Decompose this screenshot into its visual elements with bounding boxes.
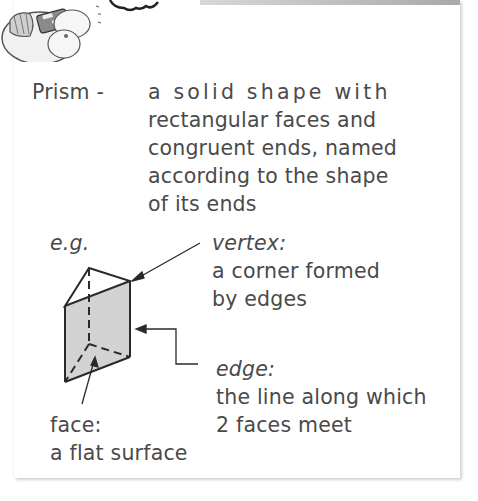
vertex-desc-line: a corner formed xyxy=(212,257,380,285)
vertex-title: vertex: xyxy=(212,229,380,257)
edge-desc-line: 2 faces meet xyxy=(216,411,427,439)
vertex-desc-line: by edges xyxy=(212,285,380,313)
edge-annotation: edge: the line along which 2 faces meet xyxy=(216,355,427,439)
face-desc-line: a flat surface xyxy=(50,439,188,467)
face-annotation: face: a flat surface xyxy=(50,411,188,467)
edge-desc-line: the line along which xyxy=(216,383,427,411)
edge-title: edge: xyxy=(216,355,427,383)
edge-arrow-icon xyxy=(136,325,198,364)
vertex-arrow-icon xyxy=(132,243,200,281)
face-title: face: xyxy=(50,411,188,439)
vertex-annotation: vertex: a corner formed by edges xyxy=(212,229,380,313)
